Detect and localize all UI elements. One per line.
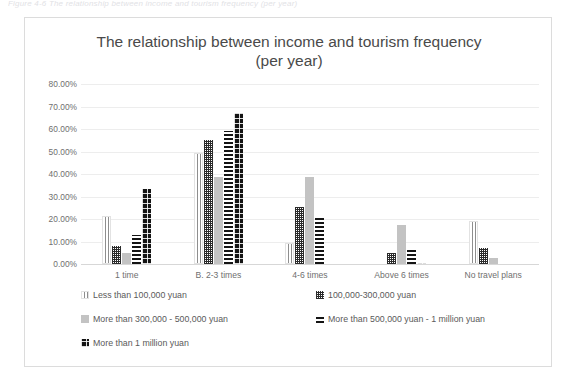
legend-swatch-icon <box>81 291 89 299</box>
bar[interactable] <box>407 248 416 264</box>
x-axis-tick-label: 1 time <box>81 266 173 284</box>
bar[interactable] <box>397 225 406 264</box>
bars-layer <box>81 84 539 264</box>
chart-title-line-2: (per year) <box>25 51 553 70</box>
y-axis-tick-label: 0.00% <box>53 259 77 269</box>
y-axis-tick-label: 60.00% <box>49 124 77 134</box>
legend-label: More than 300,000 - 500,000 yuan <box>93 314 228 324</box>
bar-group <box>81 84 173 264</box>
plot-area: 0.00%10.00%20.00%30.00%40.00%50.00%60.00… <box>25 84 553 274</box>
bar[interactable] <box>234 113 243 264</box>
bar[interactable] <box>132 235 141 264</box>
y-axis: 0.00%10.00%20.00%30.00%40.00%50.00%60.00… <box>25 84 81 264</box>
bar[interactable] <box>295 207 304 264</box>
bar[interactable] <box>469 221 478 264</box>
bar[interactable] <box>489 258 498 264</box>
bar[interactable] <box>305 177 314 264</box>
figure-caption-text: Figure 4-6 The relationship between inco… <box>8 0 297 8</box>
bar[interactable] <box>224 131 233 264</box>
legend-swatch-icon <box>81 315 89 323</box>
y-axis-tick-label: 80.00% <box>49 79 77 89</box>
legend-label: Less than 100,000 yuan <box>93 290 187 300</box>
legend-swatch-icon <box>81 339 89 347</box>
legend-item[interactable]: 100,000-300,000 yuan <box>316 290 541 300</box>
bar[interactable] <box>387 253 396 264</box>
bar-group <box>356 84 448 264</box>
x-axis-tick-label: 4-6 times <box>264 266 356 284</box>
y-axis-tick-label: 50.00% <box>49 147 77 157</box>
bar[interactable] <box>102 216 111 264</box>
y-axis-tick-label: 20.00% <box>49 214 77 224</box>
y-axis-tick-label: 70.00% <box>49 102 77 112</box>
bar[interactable] <box>417 263 426 264</box>
bar-group <box>447 84 539 264</box>
bar[interactable] <box>204 140 213 264</box>
bar[interactable] <box>285 243 294 264</box>
axis-baseline <box>81 264 539 265</box>
y-axis-tick-label: 40.00% <box>49 169 77 179</box>
x-axis: 1 timeB. 2-3 times4-6 timesAbove 6 times… <box>81 266 539 284</box>
legend-swatch-icon <box>316 291 324 299</box>
legend-item[interactable]: Less than 100,000 yuan <box>81 290 306 300</box>
chart-title: The relationship between income and tour… <box>25 32 553 70</box>
bar[interactable] <box>194 153 203 264</box>
x-axis-tick-label: Above 6 times <box>356 266 448 284</box>
legend-label: More than 500,000 yuan - 1 million yuan <box>328 314 485 324</box>
figure-caption-strip: Figure 4-6 The relationship between inco… <box>0 0 574 14</box>
legend-label: More than 1 million yuan <box>93 338 189 348</box>
bar-group <box>264 84 356 264</box>
legend-item[interactable]: More than 500,000 yuan - 1 million yuan <box>316 314 541 324</box>
chart-legend: Less than 100,000 yuan100,000-300,000 yu… <box>81 290 541 348</box>
bar[interactable] <box>214 177 223 264</box>
legend-label: 100,000-300,000 yuan <box>328 290 416 300</box>
chart-title-line-1: The relationship between income and tour… <box>25 32 553 51</box>
legend-swatch-icon <box>316 315 324 323</box>
legend-item[interactable]: More than 300,000 - 500,000 yuan <box>81 314 306 324</box>
bar[interactable] <box>112 246 121 264</box>
legend-item[interactable]: More than 1 million yuan <box>81 338 306 348</box>
bar[interactable] <box>479 248 488 264</box>
bar[interactable] <box>315 217 324 264</box>
bar[interactable] <box>122 253 131 264</box>
bar[interactable] <box>142 189 151 264</box>
y-axis-tick-label: 10.00% <box>49 237 77 247</box>
chart-container: The relationship between income and tour… <box>24 17 552 367</box>
x-axis-tick-label: No travel plans <box>447 266 539 284</box>
bar-group <box>173 84 265 264</box>
y-axis-tick-label: 30.00% <box>49 192 77 202</box>
x-axis-tick-label: B. 2-3 times <box>173 266 265 284</box>
